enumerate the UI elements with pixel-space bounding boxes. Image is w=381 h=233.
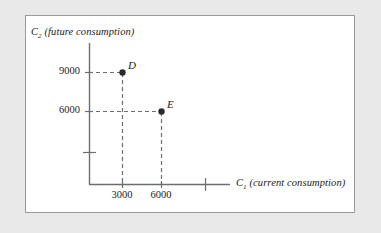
- y-axis-title-subscript: 2: [38, 32, 42, 40]
- y-tick-label-6000: 6000: [42, 104, 80, 115]
- y-axis-title-description: (future consumption): [44, 26, 134, 37]
- x-axis-title: C1 (current consumption): [236, 177, 345, 191]
- data-point-label-e: E: [167, 98, 174, 110]
- figure-root: C2 (future consumption) C1 (current cons…: [0, 0, 381, 233]
- y-axis-title: C2 (future consumption): [31, 26, 134, 40]
- y-tick-label-9000: 9000: [42, 65, 80, 76]
- data-point-d: [119, 69, 125, 75]
- x-tick-label-6000: 6000: [141, 189, 181, 200]
- data-point-e: [158, 108, 164, 114]
- x-axis-title-description: (current consumption): [249, 177, 345, 188]
- x-axis-title-subscript: 1: [243, 183, 247, 191]
- data-point-label-d: D: [128, 59, 136, 71]
- x-tick-label-3000: 3000: [102, 189, 142, 200]
